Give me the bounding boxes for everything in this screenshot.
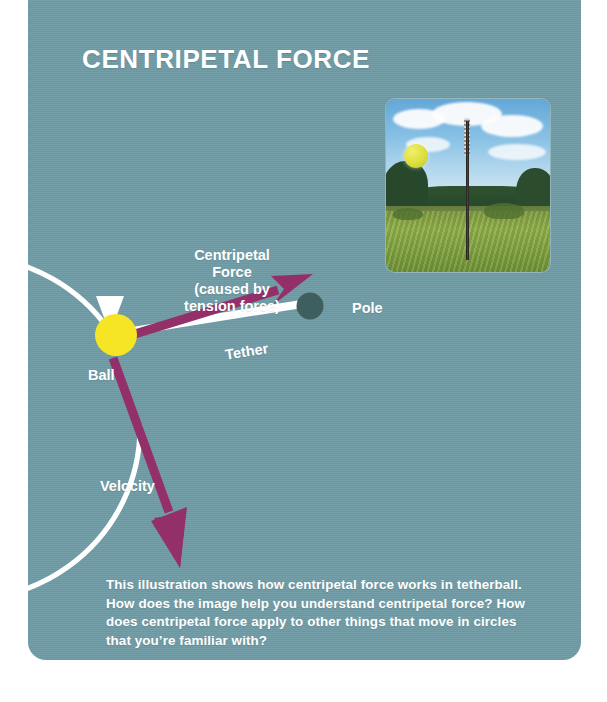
label-centripetal-force-line1: Centripetal bbox=[162, 247, 302, 264]
velocity-arrow bbox=[113, 358, 187, 568]
photo-pole bbox=[466, 121, 469, 259]
label-centripetal-force: Centripetal Force (caused by tension for… bbox=[162, 247, 302, 315]
page-title: CENTRIPETAL FORCE bbox=[82, 44, 370, 75]
motion-circle-arrow bbox=[28, 250, 140, 600]
photo-tetherball bbox=[404, 144, 428, 168]
label-centripetal-force-line2: Force bbox=[162, 264, 302, 281]
photo-cloud bbox=[481, 115, 543, 137]
label-centripetal-force-line3: (caused by bbox=[162, 281, 302, 298]
ball-marker bbox=[95, 314, 137, 356]
tetherball-photo bbox=[386, 99, 550, 272]
photo-bush bbox=[484, 203, 524, 219]
centripetal-force-card: CENTRIPETAL FORCE bbox=[28, 0, 581, 660]
label-pole: Pole bbox=[352, 300, 383, 316]
label-ball: Ball bbox=[88, 367, 115, 383]
label-centripetal-force-line4: tension force) bbox=[162, 298, 302, 315]
caption-text: This illustration shows how centripetal … bbox=[106, 576, 544, 650]
photo-bush bbox=[393, 208, 423, 220]
photo-cloud bbox=[488, 144, 546, 160]
label-velocity: Velocity bbox=[100, 478, 155, 494]
